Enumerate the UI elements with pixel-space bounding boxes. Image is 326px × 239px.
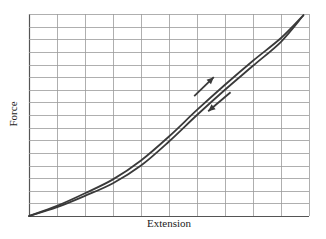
grid (29, 14, 310, 217)
x-axis-label: Extension (0, 217, 326, 229)
y-axis-label: Force (7, 101, 19, 126)
hysteresis-chart (0, 0, 326, 239)
